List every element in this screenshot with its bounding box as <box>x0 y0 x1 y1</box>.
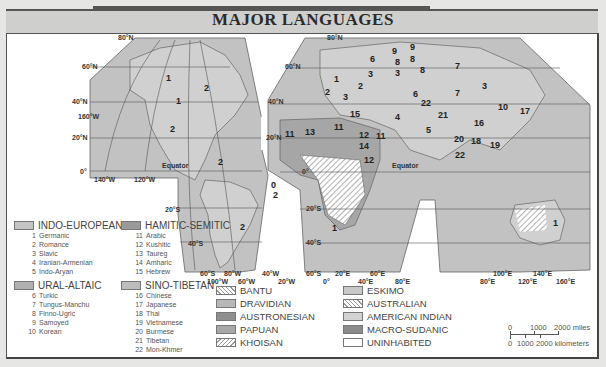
legend-other-col2: ESKIMO AUSTRALIAN AMERICAN INDIAN MACRO-… <box>343 284 452 349</box>
lat-label: 80°N <box>327 34 343 41</box>
region-number: 8 <box>420 65 425 75</box>
region-number: 7 <box>455 88 460 98</box>
region-number: 2 <box>358 81 363 91</box>
family-items: 11Arabic 12Kushitic 13Taureg 14Amharic 1… <box>121 231 230 276</box>
swatch-austronesian <box>216 312 236 321</box>
region-number: 14 <box>359 141 369 151</box>
region-number: 21 <box>438 110 448 120</box>
family-items: 16Chinese 17Japanese 18Thai 19Vietnamese… <box>121 291 214 354</box>
lon-label: 60°E <box>370 270 386 277</box>
region-number: 12 <box>359 130 369 140</box>
legend-family-ural-altaic: URAL-ALTAIC 6Turkic 7Tungus-Manchu 8Finn… <box>14 279 102 336</box>
region-number: 18 <box>471 136 481 146</box>
equator-label: Equator <box>162 162 189 170</box>
swatch-eskimo <box>343 286 363 295</box>
scale-tick: 1000 <box>530 323 547 332</box>
swatch-indo-european <box>14 221 34 230</box>
lon-label: 140°E <box>533 270 552 277</box>
swatch-macro-sudanic <box>343 325 363 334</box>
swatch-american-indian <box>343 312 363 321</box>
region-number: 2 <box>273 190 278 200</box>
legend-label: MACRO-SUDANIC <box>367 324 448 335</box>
family-items: 1Germanic 2Romance 3Slavic 4Iranian-Arme… <box>14 231 122 276</box>
lat-label: 20°S <box>306 205 322 212</box>
legend-label: AUSTRALIAN <box>367 298 427 309</box>
region-number: 19 <box>490 140 500 150</box>
legend-label: BANTU <box>240 285 272 296</box>
region-number: 1 <box>553 218 558 228</box>
scale-tick: 1000 <box>517 339 534 348</box>
family-name: SINO-TIBETAN <box>145 280 214 291</box>
legend-label: AMERICAN INDIAN <box>367 311 452 322</box>
region-number: 6 <box>370 54 375 64</box>
region-number: 1 <box>166 73 171 83</box>
lon-label: 160°E <box>556 278 575 285</box>
region-number: 22 <box>421 98 431 108</box>
family-items: 6Turkic 7Tungus-Manchu 8Finno-Ugric 9Sam… <box>14 291 102 336</box>
family-name: HAMITIC-SEMITIC <box>145 220 230 231</box>
region-number: 15 <box>350 109 360 119</box>
lon-label: 120°W <box>134 176 155 183</box>
region-number: 0 <box>271 180 276 190</box>
lon-label: 120°E <box>518 278 537 285</box>
legend-family-indo-european: INDO-EUROPEAN 1Germanic 2Romance 3Slavic… <box>14 219 122 276</box>
lon-label: 0° <box>323 278 330 285</box>
region-number: 3 <box>368 69 373 79</box>
lat-label: 60°S <box>306 270 322 277</box>
swatch-khoisan <box>216 338 236 347</box>
lon-label: 40°W <box>262 270 280 277</box>
lat-label: 60°N <box>285 63 301 70</box>
region-number: 3 <box>482 81 487 91</box>
region-number: 1 <box>176 96 181 106</box>
lon-label: 100°E <box>493 270 512 277</box>
swatch-australian <box>343 299 363 308</box>
swatch-sino-tibetan <box>121 281 141 290</box>
legend-other-col1: BANTU DRAVIDIAN AUSTRONESIAN PAPUAN KHOI… <box>216 284 315 349</box>
region-number: 11 <box>376 131 386 141</box>
swatch-uninhabited <box>343 338 363 347</box>
legend-label: KHOISAN <box>240 337 283 348</box>
region-number: 2 <box>325 87 330 97</box>
region-number: 11 <box>285 129 295 139</box>
scale-tick: 2000 miles <box>554 323 590 332</box>
scale-tick: 0 <box>508 339 512 348</box>
legend-label: AUSTRONESIAN <box>240 311 315 322</box>
scale-bar: 0 1000 2000 miles 0 1000 2000 kilometers <box>510 323 600 351</box>
region-number: 4 <box>395 112 400 122</box>
region-number: 9 <box>410 42 415 52</box>
swatch-ural-altaic <box>14 281 34 290</box>
region-number: 1 <box>334 74 339 84</box>
region-number: 10 <box>498 102 508 112</box>
region-number: 8 <box>410 54 415 64</box>
eastern-hemisphere-lobe: 80°N 60°N 40°N 20°N 0° 20°S 40°S 60°S 0°… <box>266 34 590 285</box>
lat-label: 80°N <box>118 34 134 41</box>
legend-family-hamitic-semitic: HAMITIC-SEMITIC 11Arabic 12Kushitic 13Ta… <box>121 219 230 276</box>
legend-label: ESKIMO <box>367 285 404 296</box>
region-number: 6 <box>413 89 418 99</box>
legend-label: DRAVIDIAN <box>240 298 291 309</box>
region-number: 3 <box>395 68 400 78</box>
region-number: 13 <box>305 127 315 137</box>
region-number: 16 <box>474 118 484 128</box>
lat-label: 40°N <box>268 98 284 105</box>
lat-label: 0° <box>80 168 87 175</box>
legend-label: UNINHABITED <box>367 337 431 348</box>
swatch-papuan <box>216 325 236 334</box>
lat-label: 20°N <box>72 134 88 141</box>
swatch-bantu <box>216 286 236 295</box>
lat-label: 60°N <box>82 63 98 70</box>
region-number: 9 <box>392 46 397 56</box>
lon-label: 140°W <box>94 176 115 183</box>
region-number: 8 <box>395 57 400 67</box>
lat-label: 0° <box>302 168 309 175</box>
region-number: 2 <box>204 83 209 93</box>
legend-family-sino-tibetan: SINO-TIBETAN 16Chinese 17Japanese 18Thai… <box>121 279 214 354</box>
swatch-dravidian <box>216 299 236 308</box>
lon-label: 20°E <box>335 270 351 277</box>
lat-label: 20°N <box>266 134 282 141</box>
region-number: 12 <box>364 155 374 165</box>
region-number: 3 <box>343 92 348 102</box>
lat-label: 40°N <box>72 98 88 105</box>
swatch-hamitic-semitic <box>121 221 141 230</box>
region-number: 17 <box>520 106 530 116</box>
